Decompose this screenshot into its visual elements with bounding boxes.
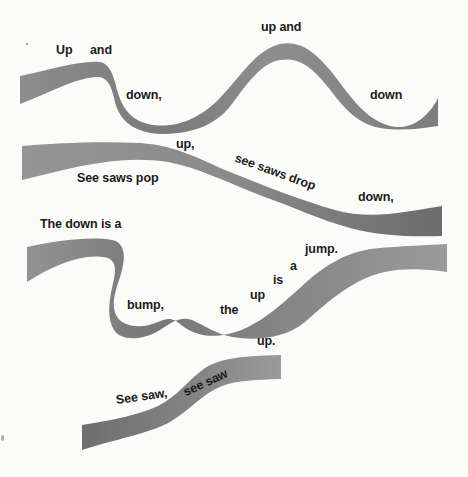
poem-word-up-3: up [250, 288, 265, 302]
poem-word-is: is [273, 273, 283, 287]
poem-word-see-saws-pop: See saws pop [77, 171, 158, 185]
poem-word-down: down, [126, 88, 162, 102]
poem-word-and: and [90, 43, 112, 57]
ribbon-3 [27, 239, 447, 339]
poem-word-jump: jump. [305, 242, 338, 256]
poem-word-up-comma: up, [176, 137, 194, 151]
poem-word-down-3: down, [358, 190, 394, 204]
poem-word-up: Up [56, 43, 72, 57]
ribbon-4 [82, 355, 281, 450]
poem-word-bump: bump, [127, 298, 164, 312]
ribbon-graphics [0, 0, 468, 477]
poem-illustration: Up and down, up and down up, See saws po… [0, 0, 468, 477]
poem-word-a: a [290, 259, 297, 273]
poem-word-the: the [220, 303, 238, 317]
speck [1, 435, 4, 441]
poem-word-the-down-is-a: The down is a [40, 217, 121, 231]
poem-word-up-and: up and [261, 20, 301, 34]
speck [26, 43, 28, 45]
poem-word-up-period: up. [257, 334, 275, 348]
poem-word-down-2: down [370, 88, 402, 102]
